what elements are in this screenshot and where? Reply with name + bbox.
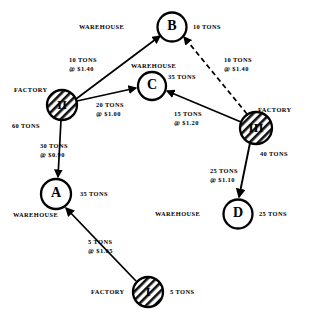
node-kind-II: FACTORY bbox=[14, 86, 48, 94]
edge-price-II-B: @ $1.40 bbox=[69, 65, 97, 74]
edge-price-III-B: @ $1.40 bbox=[224, 65, 252, 74]
node-label-I: I bbox=[138, 284, 158, 300]
edge-tons-III-B: 10 TONS bbox=[224, 56, 252, 65]
diagram-graphics bbox=[0, 0, 313, 323]
edge-II-C bbox=[77, 88, 136, 101]
node-kind-A: WAREHOUSE bbox=[13, 211, 58, 219]
edge-price-I-A: @ $1.05 bbox=[88, 247, 113, 256]
edge-label-II-B: 10 TONS @ $1.40 bbox=[69, 56, 97, 73]
node-amount-I: 5 TONS bbox=[170, 288, 194, 296]
node-kind-III: FACTORY bbox=[258, 106, 292, 114]
edge-label-II-A: 30 TONS @ $0.90 bbox=[40, 142, 68, 159]
node-kind-I: FACTORY bbox=[91, 288, 125, 296]
node-label-III: III bbox=[246, 120, 266, 136]
edge-tons-I-A: 5 TONS bbox=[88, 238, 113, 247]
node-kind-D: WAREHOUSE bbox=[155, 210, 200, 218]
node-kind-C: WAREHOUSE bbox=[131, 62, 176, 70]
node-amount-D: 25 TONS bbox=[259, 210, 287, 218]
edge-label-II-C: 20 TONS @ $1.00 bbox=[96, 101, 124, 118]
node-label-D: D bbox=[228, 205, 248, 221]
edge-tons-II-C: 20 TONS bbox=[96, 101, 124, 110]
node-kind-B: WAREHOUSE bbox=[79, 23, 124, 31]
edge-label-I-A: 5 TONS @ $1.05 bbox=[88, 238, 113, 255]
edge-price-III-D: @ $1.10 bbox=[210, 176, 238, 185]
edge-tons-III-D: 25 TONS bbox=[210, 167, 238, 176]
edge-III-D bbox=[239, 143, 250, 197]
edge-tons-III-C: 15 TONS bbox=[174, 110, 202, 119]
edge-label-III-D: 25 TONS @ $1.10 bbox=[210, 167, 238, 184]
edge-price-II-A: @ $0.90 bbox=[40, 151, 68, 160]
edge-tons-II-B: 10 TONS bbox=[69, 56, 97, 65]
edge-label-III-C: 15 TONS @ $1.20 bbox=[174, 110, 202, 127]
node-label-A: A bbox=[46, 185, 66, 201]
node-label-B: B bbox=[162, 18, 182, 34]
node-amount-A: 35 TONS bbox=[80, 190, 108, 198]
node-amount-C: 35 TONS bbox=[168, 73, 196, 81]
node-amount-III: 40 TONS bbox=[260, 150, 288, 158]
edge-price-II-C: @ $1.00 bbox=[96, 110, 124, 119]
edge-tons-II-A: 30 TONS bbox=[40, 142, 68, 151]
node-amount-II: 60 TONS bbox=[12, 122, 40, 130]
edge-label-III-B: 10 TONS @ $1.40 bbox=[224, 56, 252, 73]
node-amount-B: 10 TONS bbox=[193, 23, 221, 31]
edge-price-III-C: @ $1.20 bbox=[174, 119, 202, 128]
diagram-canvas: B C II III A D I WAREHOUSE WAREHOUSE FAC… bbox=[0, 0, 313, 323]
node-label-II: II bbox=[52, 97, 72, 113]
node-label-C: C bbox=[142, 77, 162, 93]
